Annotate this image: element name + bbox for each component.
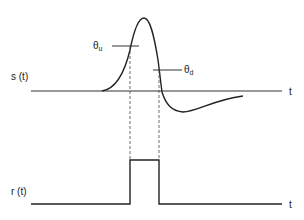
s-t-axis-t-label: t <box>289 86 292 97</box>
s-t-label: s (t) <box>11 71 28 82</box>
r-t-pulse <box>31 160 282 204</box>
bottom-panel: r (t) t <box>11 160 292 210</box>
threshold-up-label: θu <box>93 40 103 52</box>
r-t-label: r (t) <box>11 186 27 197</box>
top-panel: s (t) t θu θd <box>11 18 292 112</box>
s-t-waveform <box>102 18 243 112</box>
signal-threshold-diagram: s (t) t θu θd r (t) t <box>0 0 304 220</box>
threshold-down-label: θd <box>184 64 194 76</box>
r-t-axis-t-label: t <box>289 199 292 210</box>
